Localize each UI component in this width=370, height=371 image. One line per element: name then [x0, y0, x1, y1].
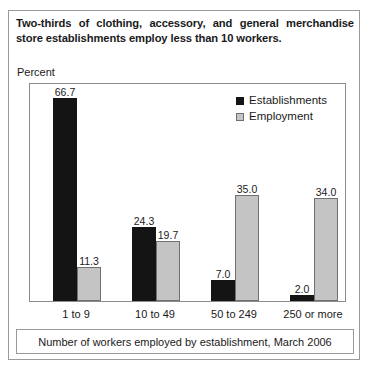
chart-card: Two-thirds of clothing, accessory, and g… — [8, 10, 360, 360]
bar-employment: 34.0 — [314, 198, 338, 301]
bar-employment: 11.3 — [77, 267, 101, 301]
bar-value-label: 35.0 — [237, 183, 257, 195]
bar-employment: 35.0 — [235, 195, 259, 301]
y-axis-label: Percent — [17, 66, 55, 79]
bar-value-label: 2.0 — [295, 283, 310, 295]
category-label: 1 to 9 — [62, 307, 90, 321]
category-label: 10 to 49 — [135, 307, 175, 321]
bar-group-container: 66.711.324.319.77.035.02.034.0 — [30, 84, 345, 301]
bar-value-label: 24.3 — [134, 215, 154, 227]
footer-caption: Number of workers employed by establishm… — [16, 329, 354, 354]
bar-value-label: 34.0 — [316, 186, 336, 198]
category-label: 250 or more — [283, 307, 342, 321]
category-label: 50 to 249 — [211, 307, 257, 321]
bar-group: 2.034.0 — [290, 84, 338, 301]
page-title: Two-thirds of clothing, accessory, and g… — [16, 16, 354, 45]
bar-value-label: 66.7 — [55, 86, 75, 98]
plot-area: Establishments Employment 66.711.324.319… — [29, 83, 346, 302]
footer-caption-text: Number of workers employed by establishm… — [38, 336, 331, 348]
bar-group: 24.319.7 — [132, 84, 180, 301]
bar-value-label: 19.7 — [158, 229, 178, 241]
bar-group: 66.711.3 — [53, 84, 101, 301]
bar-establishments: 66.7 — [53, 98, 77, 301]
bar-value-label: 7.0 — [216, 268, 231, 280]
category-axis: 1 to 910 to 4950 to 249250 or more — [29, 307, 346, 323]
bar-group: 7.035.0 — [211, 84, 259, 301]
bar-establishments: 2.0 — [290, 295, 314, 301]
bar-establishments: 7.0 — [211, 280, 235, 301]
bar-employment: 19.7 — [156, 241, 180, 301]
bar-value-label: 11.3 — [79, 255, 99, 267]
bar-establishments: 24.3 — [132, 227, 156, 301]
